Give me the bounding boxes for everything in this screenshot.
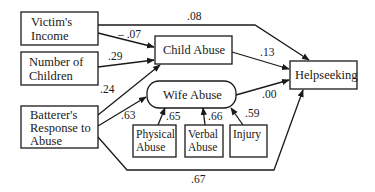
node-label: Batterer's	[30, 108, 78, 122]
node-label: Response to	[30, 121, 91, 135]
coef-income-childabuse: – .07	[117, 28, 141, 40]
coef-batterer-helpseeking: .67	[191, 173, 206, 185]
node-victims-income: Victim's Income	[21, 12, 98, 45]
node-label: Physical	[136, 128, 175, 141]
node-label: Victim's	[31, 15, 72, 29]
edge-injury-wifeabuse	[231, 108, 243, 125]
node-label: Child Abuse	[163, 43, 226, 57]
node-label: Abuse	[188, 141, 217, 153]
node-batterers-response: Batterer's Response to Abuse	[21, 106, 98, 148]
coef-wifeabuse-helpseeking: .00	[262, 88, 277, 100]
coef-childabuse-helpseeking: .13	[260, 46, 275, 58]
node-label: Verbal	[188, 128, 218, 140]
node-label: Abuse	[30, 134, 62, 148]
node-label: Children	[29, 69, 73, 83]
node-wife-abuse: Wife Abuse	[147, 81, 236, 108]
coef-children-childabuse: .29	[108, 50, 123, 62]
node-label: Number of	[29, 55, 84, 69]
coef-injury-wifeabuse: .59	[245, 107, 260, 119]
edge-verbal-wifeabuse	[203, 108, 205, 125]
node-label: Income	[31, 29, 69, 43]
node-label: Abuse	[136, 141, 165, 153]
coef-physical-wifeabuse: .65	[166, 110, 181, 122]
coef-batterer-childabuse: .24	[100, 83, 115, 95]
edge-physical-wifeabuse	[158, 108, 165, 125]
edge-children-childabuse	[98, 60, 154, 67]
coef-batterer-wifeabuse: .63	[121, 109, 136, 121]
node-label: Wife Abuse	[163, 88, 222, 102]
node-helpseeking: Helpseeking	[290, 61, 358, 89]
node-injury: Injury	[230, 125, 267, 157]
coef-verbal-wifeabuse: .66	[208, 110, 223, 122]
node-number-of-children: Number of Children	[21, 52, 98, 85]
coef-income-helpseeking: .08	[187, 10, 202, 22]
path-diagram: Victim's Income Number of Children Batte…	[0, 0, 375, 192]
node-label: Helpseeking	[295, 68, 358, 82]
node-child-abuse: Child Abuse	[155, 36, 232, 64]
node-label: Injury	[233, 128, 261, 141]
node-verbal-abuse: Verbal Abuse	[185, 125, 223, 157]
node-physical-abuse: Physical Abuse	[133, 125, 176, 157]
